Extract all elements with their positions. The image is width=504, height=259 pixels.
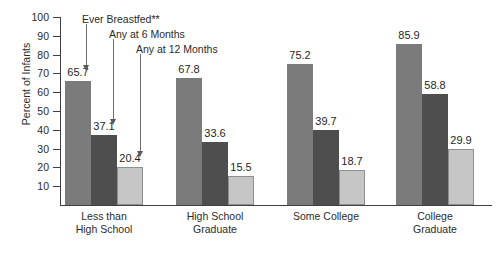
bar-value-label: 65.7 [59, 67, 97, 78]
bar [339, 170, 365, 205]
bar-value-label: 33.6 [196, 128, 234, 139]
bar-value-label: 20.4 [111, 153, 149, 164]
bar [202, 142, 228, 205]
y-axis-tick-label: 50 [25, 106, 49, 116]
bar-value-label: 58.8 [416, 80, 454, 91]
bar [287, 64, 313, 205]
y-axis-tick [53, 55, 60, 56]
category-label: Some College [265, 210, 387, 223]
annotation-arrow-line [140, 54, 141, 151]
y-axis-tick-label: 80 [25, 50, 49, 60]
y-axis-tick [53, 167, 60, 168]
category-label: High SchoolGraduate [154, 210, 276, 235]
bar [228, 176, 254, 205]
category-label-line: High School [43, 223, 165, 236]
annotation-arrow-line [113, 39, 114, 119]
bar-value-label: 18.7 [333, 156, 371, 167]
y-axis-tick-label: 20 [25, 162, 49, 172]
y-axis-line [60, 17, 61, 205]
bar [396, 44, 422, 205]
y-axis-tick [53, 92, 60, 93]
annotation-arrow-head-icon [83, 65, 89, 71]
y-axis-tick-label: 10 [25, 181, 49, 191]
y-axis-tick-label: 70 [25, 68, 49, 78]
y-axis-tick-label: 60 [25, 87, 49, 97]
bar-value-label: 85.9 [390, 30, 428, 41]
category-label-line: Graduate [374, 223, 496, 236]
bar [448, 149, 474, 205]
y-axis-tick [53, 36, 60, 37]
bar [313, 130, 339, 205]
bar [91, 135, 117, 205]
y-axis-tick [53, 17, 60, 18]
y-axis-tick-label: 40 [25, 125, 49, 135]
y-axis-tick-label: 90 [25, 31, 49, 41]
category-label-line: High School [154, 210, 276, 223]
series-annotation-label: Any at 12 Months [136, 44, 218, 55]
category-label-line: Some College [265, 210, 387, 223]
bar [65, 81, 91, 205]
annotation-arrow-head-icon [137, 151, 143, 157]
y-axis-tick [53, 186, 60, 187]
y-axis-tick [53, 130, 60, 131]
y-axis-title: Percent of Infants [20, 4, 32, 164]
y-axis-tick [53, 149, 60, 150]
bar-value-label: 67.8 [170, 64, 208, 75]
bar-value-label: 75.2 [281, 50, 319, 61]
annotation-arrow-head-icon [110, 119, 116, 125]
category-label-line: Less than [43, 210, 165, 223]
category-label-line: College [374, 210, 496, 223]
bar-value-label: 37.1 [85, 121, 123, 132]
category-label: Less thanHigh School [43, 210, 165, 235]
bar [422, 94, 448, 205]
y-axis-tick-label: 100 [25, 12, 49, 22]
category-label: CollegeGraduate [374, 210, 496, 235]
bar-chart: Percent of Infants 102030405060708090100… [0, 0, 504, 259]
bar [117, 167, 143, 205]
series-annotation-label: Ever Breastfed** [82, 14, 160, 25]
y-axis-tick-label: 30 [25, 144, 49, 154]
bar-value-label: 29.9 [442, 135, 480, 146]
series-annotation-label: Any at 6 Months [109, 29, 185, 40]
category-label-line: Graduate [154, 223, 276, 236]
bar [176, 78, 202, 205]
bar-value-label: 15.5 [222, 162, 260, 173]
x-axis-line [60, 205, 492, 206]
annotation-arrow-line [86, 24, 87, 65]
bar-value-label: 39.7 [307, 116, 345, 127]
y-axis-tick [53, 111, 60, 112]
